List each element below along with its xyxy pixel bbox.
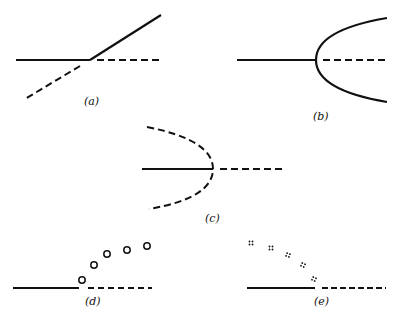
panel-c [142,127,282,209]
panel-b-label: (b) [313,110,329,123]
panel-d-orbit-marker [91,262,97,268]
panel-e-dot-cluster [300,262,306,268]
panel-d-orbit-marker [124,247,130,253]
panel-a-stable-diagonal [90,15,161,60]
panel-e-dot-cluster [269,246,274,251]
panel-e-label: (e) [314,295,329,308]
panel-e-orbit-markers [249,241,318,283]
panel-d-orbit-marker [79,277,85,283]
panel-d-orbit-marker [144,243,150,249]
panel-e-dot-cluster [311,276,317,282]
panel-b [237,18,387,102]
panel-d-orbit-marker [104,251,110,257]
panel-e-dot-cluster [249,241,254,246]
panel-e-dot-cluster [285,252,291,258]
panel-d [13,243,152,288]
panel-a-label: (a) [84,95,99,108]
bifurcation-diagram: (a) (b) (c) (d) [0,0,399,317]
panel-a [16,15,161,99]
panel-d-label: (d) [85,295,101,308]
panel-c-label: (c) [205,212,220,225]
panel-a-unstable-diagonal [25,66,80,99]
